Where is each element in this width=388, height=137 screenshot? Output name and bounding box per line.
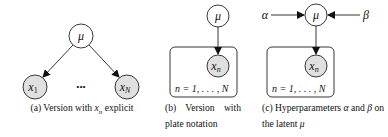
- node-mu-label-b: μ: [214, 9, 221, 23]
- caption-c-mid: and: [349, 102, 368, 113]
- caption-b-line2: plate notation: [165, 116, 241, 132]
- edge-mu-to-xN: [89, 45, 119, 77]
- edge-mu-to-x1: [43, 45, 73, 77]
- hyperparam-beta-label: β: [362, 8, 369, 22]
- ellipsis-dots: •••: [76, 82, 85, 92]
- caption-b: (b) Version withplate notation: [165, 100, 241, 132]
- caption-c-prefix: (c) Hyperparameters: [262, 102, 344, 113]
- node-mu-label-c: μ: [312, 8, 319, 22]
- plate-label-b: n = 1, . . . , N: [175, 83, 230, 94]
- plate-label-c: n = 1, . . . , N: [272, 83, 327, 94]
- caption-a-suffix: explicit: [102, 102, 133, 113]
- caption-c-mu: μ: [300, 118, 305, 129]
- hyperparam-alpha-label: α: [262, 8, 269, 22]
- panel-a: μ x1 ••• xN: [23, 24, 139, 99]
- panel-b: μ xn n = 1, . . . , N: [170, 5, 237, 97]
- panel-c: α β μ xn n = 1, . . . , N: [262, 4, 369, 97]
- caption-a: (a) Version with xn explicit: [22, 100, 142, 120]
- caption-a-prefix: (a) Version with: [31, 102, 95, 113]
- caption-c: (c) Hyperparameters α and β on the laten…: [262, 100, 384, 132]
- node-mu-label: μ: [77, 29, 84, 43]
- caption-b-line1: (b) Version with: [165, 100, 241, 116]
